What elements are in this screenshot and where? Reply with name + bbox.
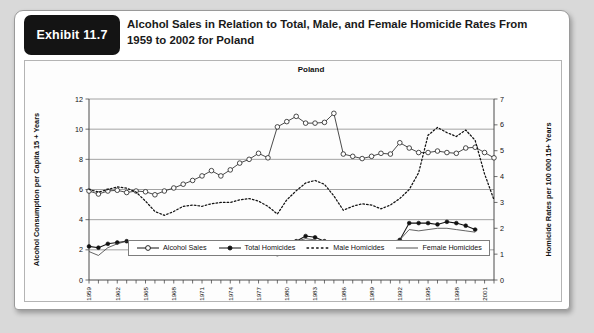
x-axis-tick-label: 1980 [283, 286, 290, 300]
x-axis-tick-label: 1971 [198, 286, 205, 300]
data-point [143, 189, 148, 194]
data-point [398, 140, 403, 145]
y2-axis-tick-label: 1 [500, 250, 504, 259]
x-axis-tick-label: 1962 [114, 286, 121, 300]
y2-axis-tick-label: 4 [500, 172, 504, 181]
data-point [416, 150, 421, 155]
data-point [237, 161, 242, 166]
data-point [445, 150, 450, 155]
exhibit-header: Exhibit 11.7 Alcohol Sales in Relation t… [15, 11, 569, 58]
data-point [454, 221, 458, 225]
series-alcohol-sales [87, 111, 497, 197]
y-axis-tick-label: 8 [79, 155, 83, 164]
data-point [303, 121, 308, 126]
x-axis-tick-label: 1998 [453, 286, 460, 300]
data-point [87, 244, 91, 248]
x-axis-tick-label: 1977 [255, 286, 262, 300]
data-point [369, 154, 374, 159]
data-point [96, 192, 101, 197]
chart-legend: Alcohol SalesTotal HomicidesMale Homicid… [128, 240, 490, 256]
data-point [463, 146, 468, 151]
x-axis-tick-label: 1992 [396, 286, 403, 300]
y-axis-tick-label: 10 [75, 125, 83, 134]
data-point [275, 125, 280, 130]
x-axis-tick-label: 1959 [85, 286, 92, 300]
legend-label: Alcohol Sales [163, 243, 207, 252]
x-axis-tick-label: 1989 [368, 286, 375, 300]
data-point [256, 151, 261, 156]
legend-item: Male Homicides [306, 243, 384, 252]
data-point [426, 221, 430, 225]
y2-axis-tick-label: 3 [500, 198, 504, 207]
legend-swatch-thin-solid [395, 244, 419, 252]
legend-item: Female Homicides [395, 243, 482, 252]
data-point [124, 190, 129, 195]
exhibit-title: Alcohol Sales in Relation to Total, Male… [127, 17, 547, 48]
legend-label: Total Homicides [245, 243, 296, 252]
y-axis-tick-label: 12 [75, 95, 83, 104]
y-axis-tick-label: 6 [79, 185, 83, 194]
data-point [115, 188, 120, 193]
x-axis-tick-label: 1965 [142, 286, 149, 300]
chart-frame: Poland 024681012012345671959196219651968… [24, 60, 562, 302]
data-point [436, 223, 440, 227]
data-point [435, 149, 440, 154]
y-axis-tick-label: 0 [79, 276, 83, 285]
x-axis-tick-label: 1986 [340, 286, 347, 300]
data-point [284, 119, 289, 124]
data-point [97, 246, 101, 250]
legend-label: Male Homicides [333, 243, 384, 252]
x-axis-tick-label: 1995 [424, 286, 431, 300]
data-point [454, 151, 459, 156]
y2-axis-tick-label: 5 [500, 146, 504, 155]
x-axis-tick-label: 2001 [481, 286, 488, 300]
data-point [426, 150, 431, 155]
series-male-homicides [89, 127, 494, 215]
data-point [294, 114, 299, 119]
data-point [209, 168, 214, 173]
data-point [171, 186, 176, 191]
data-point [360, 156, 365, 161]
data-point [341, 152, 346, 157]
data-point [445, 220, 449, 224]
y-axis-tick-label: 4 [79, 215, 83, 224]
data-point [106, 242, 110, 246]
legend-item: Alcohol Sales [136, 243, 207, 252]
data-point [407, 221, 411, 225]
exhibit-badge: Exhibit 11.7 [24, 15, 120, 55]
data-point [388, 152, 393, 157]
x-axis-tick-label: 1968 [170, 286, 177, 300]
y2-axis-tick-label: 0 [500, 276, 504, 285]
data-point [464, 224, 468, 228]
y-axis-tick-label: 2 [79, 245, 83, 254]
data-point [350, 154, 355, 159]
data-point [153, 192, 158, 197]
y2-axis-tick-label: 6 [500, 120, 504, 129]
legend-swatch-solid [218, 244, 242, 252]
data-point [219, 174, 224, 179]
data-point [473, 228, 477, 232]
line-chart: 0246810120123456719591962196519681971197… [25, 61, 563, 303]
series-line [89, 127, 494, 215]
data-point [417, 221, 421, 225]
data-point [200, 174, 205, 179]
y-axis-title: Alcohol Consumption per Capita 15 + Year… [32, 113, 41, 266]
data-point [181, 182, 186, 187]
legend-swatch-solid [136, 244, 160, 252]
exhibit-badge-label: Exhibit 11.7 [36, 28, 107, 42]
data-point [379, 151, 384, 156]
legend-filled-circle-marker [228, 246, 232, 250]
y2-axis-tick-label: 7 [500, 95, 504, 104]
page-root: Exhibit 11.7 Alcohol Sales in Relation t… [0, 0, 594, 333]
data-point [313, 235, 317, 239]
legend-item: Total Homicides [218, 243, 296, 252]
x-axis-tick-label: 1983 [311, 286, 318, 300]
y2-axis-title: Homicide Rates per 100 000 15+ Years [544, 122, 553, 256]
data-point [228, 168, 233, 173]
data-point [482, 150, 487, 155]
data-point [247, 157, 252, 162]
data-point [162, 189, 167, 194]
data-point [407, 146, 412, 151]
series-line [89, 113, 494, 194]
legend-label: Female Homicides [422, 243, 482, 252]
